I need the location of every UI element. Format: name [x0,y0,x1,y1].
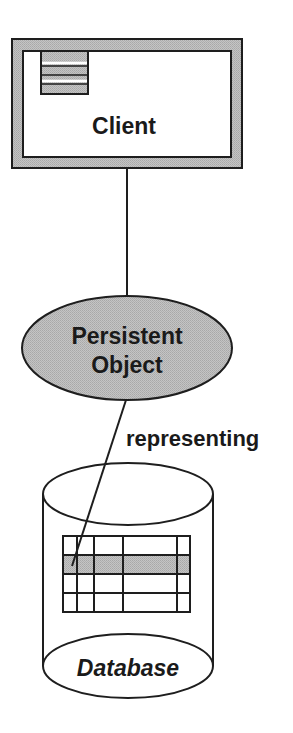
client-node: Client [12,39,242,168]
persistent-object-label-line1: Persistent [71,323,183,349]
database-label: Database [77,655,179,681]
database-node: Database [43,463,213,698]
client-object-database-diagram: Client Persistent Object Database repres… [0,0,293,733]
persistent-object-label-line2: Object [91,352,163,378]
table-highlighted-row [63,555,190,574]
representing-label: representing [126,426,259,451]
persistent-object-node: Persistent Object [22,296,232,400]
database-cylinder-top [43,463,213,525]
client-label: Client [92,113,156,139]
menu-stripes-icon [41,51,88,94]
